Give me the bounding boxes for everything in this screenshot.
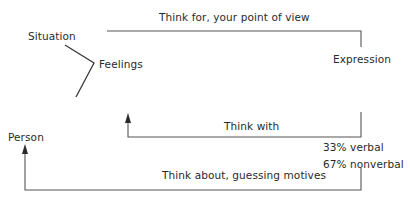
- situation-node: Situation: [28, 30, 76, 42]
- feelings-node: Feelings: [99, 58, 143, 70]
- think-for-label: Think for, your point of view: [159, 11, 310, 23]
- think-about-label: Think about, guessing motives: [162, 169, 326, 181]
- think-about-arrow-icon: [22, 144, 28, 154]
- think-with-arrow-icon: [125, 113, 131, 123]
- expression-node: Expression: [333, 53, 391, 65]
- think-with-label: Think with: [224, 120, 279, 132]
- nonverbal-percentage: 67% nonverbal: [323, 158, 404, 170]
- think-for-connector: [107, 31, 361, 47]
- person-node: Person: [8, 131, 44, 143]
- verbal-percentage: 33% verbal: [323, 141, 384, 153]
- feelings-chevron: [65, 45, 94, 97]
